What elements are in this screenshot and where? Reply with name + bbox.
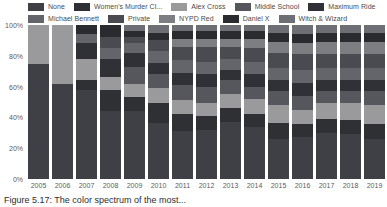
bar-segment[interactable] [172, 114, 193, 131]
bar-segment[interactable] [340, 25, 361, 33]
bar-segment[interactable] [292, 124, 313, 138]
bar-segment[interactable] [100, 77, 121, 89]
bar-segment[interactable] [292, 54, 313, 69]
bar-segment[interactable] [76, 90, 97, 179]
bar-column[interactable] [100, 25, 121, 179]
bar-segment[interactable] [196, 103, 217, 115]
bar-segment[interactable] [340, 120, 361, 134]
bar-segment[interactable] [268, 123, 289, 138]
bar-segment[interactable] [196, 62, 217, 74]
bar-segment[interactable] [364, 33, 385, 42]
bar-segment[interactable] [316, 42, 337, 54]
bar-segment[interactable] [28, 64, 49, 180]
bar-segment[interactable] [124, 97, 145, 111]
bar-segment[interactable] [268, 42, 289, 53]
bar-segment[interactable] [340, 68, 361, 80]
bar-segment[interactable] [124, 67, 145, 84]
bar-segment[interactable] [292, 70, 313, 84]
bar-segment[interactable] [316, 68, 337, 80]
bar-segment[interactable] [196, 130, 217, 179]
bar-segment[interactable] [268, 53, 289, 68]
bar-segment[interactable] [244, 127, 265, 179]
bar-segment[interactable] [148, 25, 169, 33]
bar-column[interactable] [220, 25, 241, 179]
bar-segment[interactable] [148, 63, 169, 74]
bar-segment[interactable] [364, 42, 385, 54]
bar-segment[interactable] [292, 43, 313, 54]
bar-segment[interactable] [220, 108, 241, 122]
bar-segment[interactable] [292, 34, 313, 43]
bar-segment[interactable] [316, 25, 337, 33]
bar-segment[interactable] [148, 103, 169, 123]
bar-segment[interactable] [268, 91, 289, 105]
bar-segment[interactable] [316, 80, 337, 91]
bar-segment[interactable] [148, 74, 169, 88]
bar-segment[interactable] [172, 60, 193, 72]
bar-segment[interactable] [244, 62, 265, 74]
bar-segment[interactable] [268, 68, 289, 80]
bar-column[interactable] [244, 25, 265, 179]
bar-segment[interactable] [124, 84, 145, 98]
bar-segment[interactable] [172, 47, 193, 61]
bar-segment[interactable] [196, 47, 217, 62]
bar-segment[interactable] [124, 43, 145, 52]
bar-column[interactable] [28, 25, 49, 179]
bar-segment[interactable] [100, 25, 121, 37]
bar-segment[interactable] [172, 131, 193, 179]
bar-segment[interactable] [244, 74, 265, 86]
bar-segment[interactable] [100, 90, 121, 112]
bar-segment[interactable] [148, 33, 169, 41]
bar-segment[interactable] [244, 114, 265, 126]
bar-segment[interactable] [196, 116, 217, 130]
legend-item[interactable]: Daniel X [223, 15, 270, 23]
bar-segment[interactable] [364, 91, 385, 105]
bar-segment[interactable] [244, 99, 265, 114]
bar-column[interactable] [268, 25, 289, 179]
bar-segment[interactable] [196, 87, 217, 104]
bar-segment[interactable] [220, 47, 241, 59]
bar-segment[interactable] [292, 110, 313, 124]
legend-item[interactable]: Alex Cross [171, 3, 225, 11]
bar-segment[interactable] [244, 39, 265, 48]
bar-segment[interactable] [340, 42, 361, 54]
bar-segment[interactable] [172, 85, 193, 100]
bar-segment[interactable] [364, 139, 385, 179]
bar-segment[interactable] [124, 53, 145, 67]
legend-item[interactable]: Maximum Ride [308, 3, 375, 11]
bar-segment[interactable] [172, 39, 193, 47]
bar-segment[interactable] [100, 59, 121, 77]
bar-segment[interactable] [76, 43, 97, 58]
bar-segment[interactable] [268, 105, 289, 123]
bar-segment[interactable] [340, 134, 361, 179]
bar-column[interactable] [172, 25, 193, 179]
bar-segment[interactable] [292, 83, 313, 95]
bar-segment[interactable] [220, 80, 241, 94]
bar-segment[interactable] [172, 73, 193, 85]
legend-item[interactable]: None [28, 3, 65, 11]
bar-column[interactable] [316, 25, 337, 179]
bar-segment[interactable] [316, 33, 337, 42]
bar-segment[interactable] [124, 111, 145, 179]
bar-segment[interactable] [268, 139, 289, 179]
bar-segment[interactable] [268, 80, 289, 91]
legend-item[interactable]: NYPD Red [159, 15, 214, 23]
bar-segment[interactable] [364, 68, 385, 80]
bar-segment[interactable] [340, 54, 361, 68]
bar-segment[interactable] [52, 25, 73, 84]
bar-segment[interactable] [244, 87, 265, 99]
bar-column[interactable] [148, 25, 169, 179]
bar-segment[interactable] [316, 133, 337, 179]
bar-segment[interactable] [292, 137, 313, 179]
bar-segment[interactable] [148, 51, 169, 63]
bar-segment[interactable] [148, 40, 169, 51]
bar-column[interactable] [196, 25, 217, 179]
legend-item[interactable]: Women's Murder Cl... [74, 3, 162, 11]
bar-segment[interactable] [268, 25, 289, 33]
bar-segment[interactable] [340, 91, 361, 103]
bar-segment[interactable] [364, 80, 385, 91]
bar-segment[interactable] [316, 91, 337, 103]
bar-segment[interactable] [76, 34, 97, 43]
bar-segment[interactable] [364, 25, 385, 33]
bar-segment[interactable] [220, 31, 241, 39]
bar-segment[interactable] [244, 31, 265, 39]
